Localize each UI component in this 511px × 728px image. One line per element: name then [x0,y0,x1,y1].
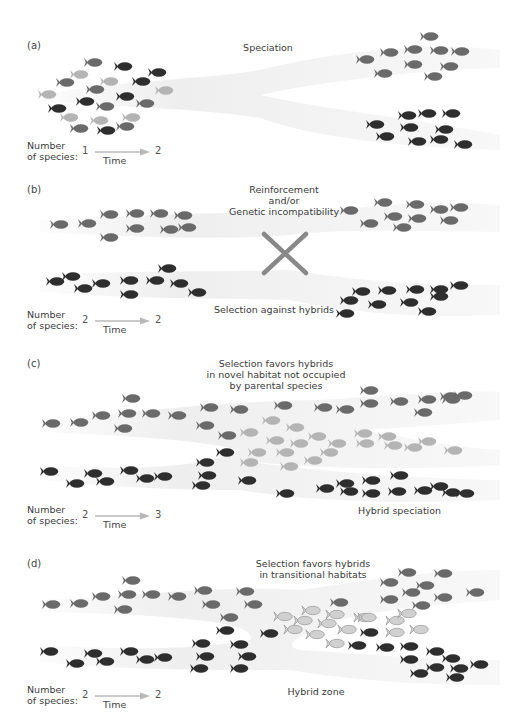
panel-b-letter: (b) [27,184,41,195]
fish-icon [420,32,438,41]
fish-icon [376,643,394,652]
fish-icon [122,113,140,122]
fish-icon [216,448,234,457]
panel-c-title: Selection favors hybrids in novel habita… [207,358,346,391]
fish-icon [400,642,418,651]
panel-b-time-label: Time [103,324,126,335]
fish-icon [122,576,140,585]
fish-icon [386,616,404,625]
fish-icon [60,113,78,122]
fish-icon [97,126,115,135]
fish-icon [100,77,118,86]
fish-icon [424,72,442,81]
fish-icon [326,639,344,648]
panel-c-caption: Hybrid speciation [358,505,441,516]
fish-icon [216,626,234,635]
panel-b-title: Reinforcement and/or Genetic incompatibi… [229,184,339,217]
panel-b-species-after: 2 [155,314,161,325]
fish-icon [360,628,378,637]
panel-d-species-before: 2 [82,689,88,700]
fish-icon [398,568,416,577]
fish-icon [56,78,74,87]
panel-c-time-label: Time [103,519,126,530]
fish-icon [360,386,378,395]
panel-d-caption: Hybrid zone [287,686,344,697]
fish-icon [122,394,140,403]
fish-icon [116,122,134,131]
panel-a-count-label: Number of species: [27,140,78,162]
fish-icon [426,647,444,656]
fish-icon [338,625,356,634]
fish-icon [70,70,88,79]
panel-b-species-before: 2 [82,314,88,325]
fish-icon [148,68,166,77]
panel-a-species-before: 1 [82,145,88,156]
fish-icon [336,309,354,318]
panel-a-title: Speciation [243,42,293,53]
fish-icon [70,124,88,133]
fish-icon [386,628,404,637]
fish-icon [410,625,428,634]
panel-b-count-label: Number of species: [27,309,78,331]
panel-a-time-label: Time [103,155,126,166]
panel-c-species-after: 3 [155,509,161,520]
panel-b-caption: Selection against hybrids [214,304,334,315]
fish-icon [114,62,132,71]
panel-d-title: Selection favors hybrids in transitional… [256,558,370,580]
fish-icon [374,198,392,207]
panel-c-count-label: Number of species: [27,504,78,526]
panel-d-count-label: Number of species: [27,684,78,706]
cross-icon [264,234,306,273]
speciation-figure: (a) Speciation Number of species: 1 2 Ti… [0,0,511,728]
panel-d-time-label: Time [103,699,126,710]
fish-icon [90,116,108,125]
fish-icon [48,104,66,113]
panel-c-letter: (c) [27,358,40,369]
fish-icon [442,109,460,118]
panel-d-letter: (d) [27,558,41,569]
fish-icon [418,109,436,118]
fish-icon [84,58,102,67]
panel-a-letter: (a) [27,40,41,51]
panel-a-species-after: 2 [155,145,161,156]
panel-c-species-before: 2 [82,509,88,520]
fish-icon [348,641,366,650]
panel-d-species-after: 2 [155,689,161,700]
